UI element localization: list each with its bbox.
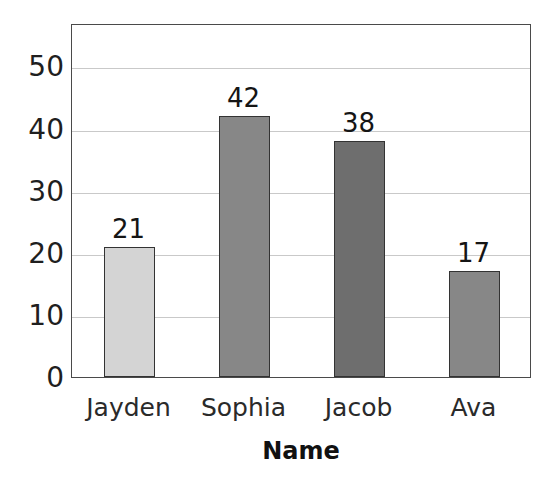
y-tick-label: 50 [4,53,64,81]
bar-sophia[interactable] [219,116,270,377]
plot-area [71,24,531,378]
bar-value-label: 42 [204,85,284,111]
bar-value-label: 21 [89,216,169,242]
bar-chart: Total Born: 840 50403020100 21Jayden42So… [0,0,553,499]
bar-value-label: 17 [434,240,514,266]
y-tick-label: 10 [4,302,64,330]
y-tick-label: 20 [4,240,64,268]
bar-value-label: 38 [319,110,399,136]
plot-inner [72,25,530,377]
bar-jacob[interactable] [334,141,385,377]
bar-jayden[interactable] [104,247,155,377]
x-axis-title: Name [71,437,531,465]
gridline [72,193,530,194]
x-tick-label: Ava [404,395,544,420]
y-axis: 50403020100 [0,0,64,499]
bar-ava[interactable] [449,271,500,377]
y-tick-label: 40 [4,116,64,144]
y-tick-label: 30 [4,178,64,206]
gridline [72,68,530,69]
gridline [72,131,530,132]
y-tick-label: 0 [4,364,64,392]
